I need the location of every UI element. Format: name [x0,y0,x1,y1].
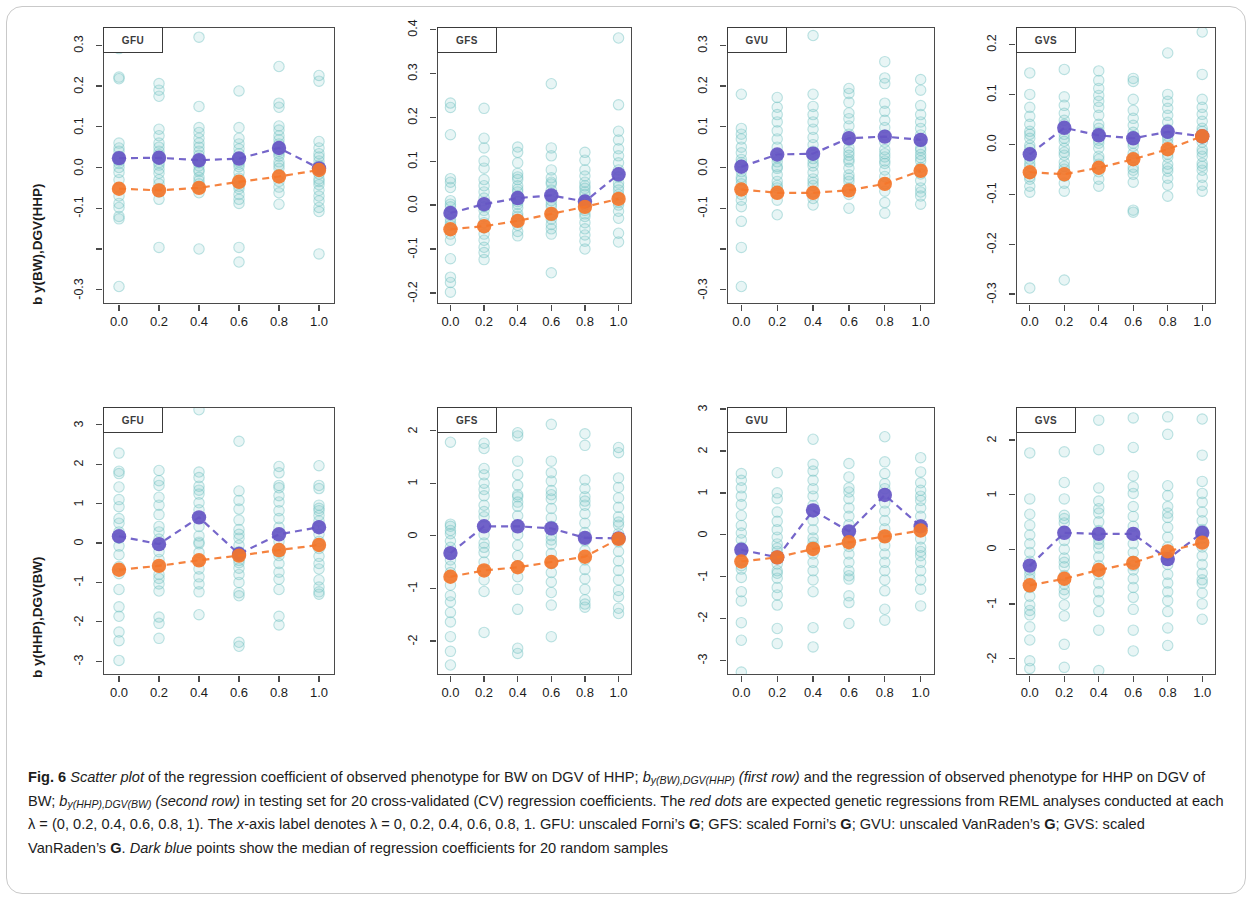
scatter-point [1163,508,1173,518]
panel-gvs-row2: GVS210-1-20.00.20.40.60.81.0 [0,0,1258,760]
scatter-point [1197,476,1207,486]
scatter-point [1128,604,1138,614]
scatter-point [1094,625,1104,635]
series-line [1030,533,1202,566]
scatter-point [1163,595,1173,605]
scatter-point [1197,588,1207,598]
scatter-point [1025,448,1035,458]
scatter-point [1025,605,1035,615]
scatter-point [1163,429,1173,439]
scatter-point [1059,611,1069,621]
series-marker [1195,535,1209,549]
scatter-point [1128,442,1138,452]
panel-strip-label: GVS [1016,407,1076,433]
scatter-point [1163,522,1173,532]
scatter-point [1163,532,1173,542]
scatter-point [1128,646,1138,656]
scatter-point [1128,592,1138,602]
scatter-point [1059,494,1069,504]
scatter-point [1163,481,1173,491]
scatter-point [1059,662,1069,672]
scatter-point [1059,557,1069,567]
scatter-point [1094,496,1104,506]
scatter-point [1163,490,1173,500]
scatter-point [1059,639,1069,649]
scatter-point [1059,477,1069,487]
scatter-point [1197,575,1207,585]
series-marker [1092,527,1106,541]
plot-area: GFU0.30.20.10.0-0.1-0.30.00.20.40.60.81.… [0,0,1258,760]
series-marker [1126,527,1140,541]
scatter-point [1128,471,1138,481]
scatter-point [1094,415,1104,425]
scatter-point [1094,665,1104,675]
scatter-point [1094,444,1104,454]
scatter-point [1094,606,1104,616]
series-marker [1057,572,1071,586]
figure-caption: Fig. 6 Scatter plot of the regression co… [28,766,1226,861]
scatter-point [1197,599,1207,609]
series-marker [1161,544,1175,558]
scatter-point [1128,511,1138,521]
scatter-point [1128,482,1138,492]
series-marker [1092,563,1106,577]
scatter-point [1197,614,1207,624]
scatter-point [1163,606,1173,616]
scatter-point [1128,413,1138,423]
scatter-point [1025,622,1035,632]
scatter-point [1025,509,1035,519]
series-line [1030,543,1202,586]
panel-strip-label: GFS [437,27,497,53]
panel-strip-label: GFU [103,27,163,53]
scatter-point [1059,513,1069,523]
scatter-point [1059,584,1069,594]
scatter-point [1059,447,1069,457]
scatter-point [1163,412,1173,422]
scatter-point [1059,600,1069,610]
data-layer [0,0,1258,760]
scatter-point [1128,501,1138,511]
scatter-point [1094,595,1104,605]
scatter-point [1025,663,1035,673]
scatter-point [1197,450,1207,460]
scatter-point [1128,582,1138,592]
panel-strip-label: GVU [727,407,787,433]
series-marker [1057,526,1071,540]
scatter-point [1128,625,1138,635]
panel-strip-label: GFS [437,407,497,433]
scatter-point [1163,640,1173,650]
panel-strip-label: GFU [103,407,163,433]
scatter-point [1094,483,1104,493]
panel-strip-label: GVU [727,27,787,53]
series-marker [1126,556,1140,570]
scatter-point [1163,623,1173,633]
row2-y-axis-title: b y(HHP),DGV(BW) [30,556,45,678]
series-marker [1023,578,1037,592]
scatter-point [1197,414,1207,424]
row1-y-axis-title: b y(BW),DGV(HHP) [30,183,45,305]
series-marker [1023,558,1037,572]
scatter-point [1025,635,1035,645]
panel-strip-label: GVS [1016,27,1076,53]
scatter-point [1025,494,1035,504]
scatter-point [1197,497,1207,507]
scatter-point [1025,520,1035,530]
